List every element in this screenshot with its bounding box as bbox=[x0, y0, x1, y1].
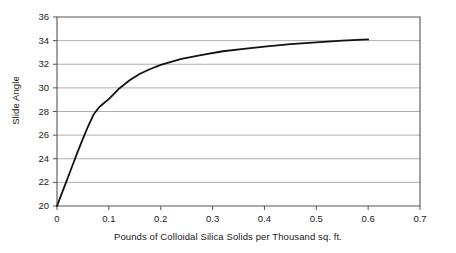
plot-area bbox=[0, 0, 456, 253]
slide-angle-chart: Slide Angle 202224262830323436 00.10.20.… bbox=[0, 0, 456, 253]
x-axis-label: Pounds of Colloidal Silica Solids per Th… bbox=[0, 231, 456, 242]
